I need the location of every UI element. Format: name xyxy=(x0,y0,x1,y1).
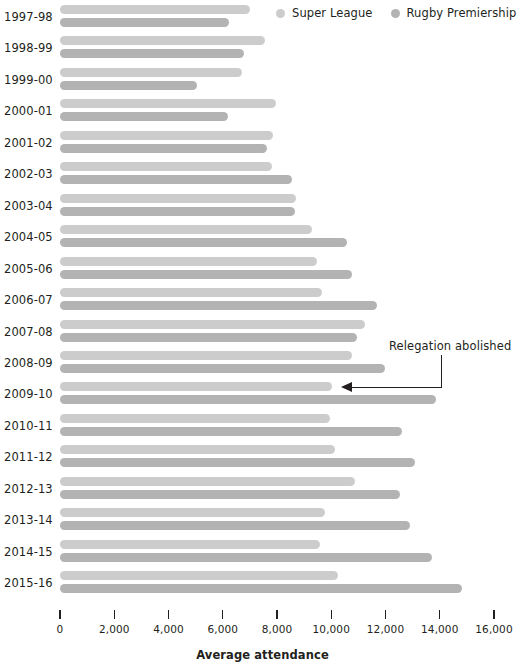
bar-super-league[interactable] xyxy=(60,36,265,45)
bar-super-league[interactable] xyxy=(60,257,317,266)
bar-super-league[interactable] xyxy=(60,68,242,77)
bar-super-league[interactable] xyxy=(60,320,365,329)
bar-rugby-premiership[interactable] xyxy=(60,49,244,58)
bar-super-league[interactable] xyxy=(60,477,355,486)
row-bars xyxy=(0,442,525,472)
chart-row: 1999-00 xyxy=(0,65,525,95)
bar-super-league[interactable] xyxy=(60,99,276,108)
bar-super-league[interactable] xyxy=(60,225,312,234)
bar-super-league[interactable] xyxy=(60,288,322,297)
row-bars xyxy=(0,254,525,284)
row-bars xyxy=(0,65,525,95)
chart-row: 2012-13 xyxy=(0,474,525,504)
bar-rugby-premiership[interactable] xyxy=(60,584,462,593)
row-bars xyxy=(0,128,525,158)
bar-super-league[interactable] xyxy=(60,5,250,14)
chart-row: 2011-12 xyxy=(0,442,525,472)
annotation-leader-vertical xyxy=(441,355,442,388)
bar-super-league[interactable] xyxy=(60,131,273,140)
chart-row: 2015-16 xyxy=(0,568,525,598)
bar-super-league[interactable] xyxy=(60,571,338,580)
bar-rugby-premiership[interactable] xyxy=(60,238,347,247)
annotation-arrowhead-icon xyxy=(341,382,352,392)
bar-rugby-premiership[interactable] xyxy=(60,144,267,153)
bar-super-league[interactable] xyxy=(60,414,330,423)
row-bars xyxy=(0,285,525,315)
bar-super-league[interactable] xyxy=(60,194,296,203)
x-axis-tick xyxy=(168,610,169,619)
bar-super-league[interactable] xyxy=(60,508,325,517)
x-axis-tick-label: 10,000 xyxy=(313,623,350,635)
attendance-bar-chart: Super League Rugby Premiership 1997-9819… xyxy=(0,0,525,669)
x-axis-tick xyxy=(59,610,60,619)
chart-row: 2005-06 xyxy=(0,254,525,284)
x-axis-title: Average attendance xyxy=(0,648,525,662)
x-axis-tick-label: 12,000 xyxy=(367,623,404,635)
chart-row: 1997-98 xyxy=(0,2,525,32)
x-axis-tick-label: 0 xyxy=(57,623,64,635)
bar-rugby-premiership[interactable] xyxy=(60,301,377,310)
row-bars xyxy=(0,537,525,567)
plot-area: 1997-981998-991999-002000-012001-022002-… xyxy=(0,0,525,600)
row-bars xyxy=(0,96,525,126)
x-axis-tick-label: 14,000 xyxy=(421,623,458,635)
bar-rugby-premiership[interactable] xyxy=(60,270,352,279)
row-bars xyxy=(0,159,525,189)
bar-super-league[interactable] xyxy=(60,162,272,171)
chart-row: 2002-03 xyxy=(0,159,525,189)
bar-rugby-premiership[interactable] xyxy=(60,175,292,184)
x-axis: Average attendance 02,0004,0006,0008,000… xyxy=(0,600,525,669)
x-axis-tick-label: 16,000 xyxy=(475,623,512,635)
bar-super-league[interactable] xyxy=(60,445,335,454)
row-bars xyxy=(0,568,525,598)
bar-rugby-premiership[interactable] xyxy=(60,553,432,562)
bar-rugby-premiership[interactable] xyxy=(60,18,229,27)
bar-rugby-premiership[interactable] xyxy=(60,490,400,499)
chart-row: 2013-14 xyxy=(0,505,525,535)
x-axis-tick xyxy=(493,610,494,619)
row-bars xyxy=(0,191,525,221)
chart-row: 2009-10 xyxy=(0,379,525,409)
chart-row: 2014-15 xyxy=(0,537,525,567)
x-axis-tick xyxy=(114,610,115,619)
bar-rugby-premiership[interactable] xyxy=(60,458,415,467)
x-axis-tick xyxy=(385,610,386,619)
x-axis-tick xyxy=(439,610,440,619)
x-axis-tick-label: 6,000 xyxy=(207,623,238,635)
annotation-label: Relegation abolished xyxy=(389,339,511,353)
bar-rugby-premiership[interactable] xyxy=(60,112,228,121)
x-axis-tick xyxy=(222,610,223,619)
x-axis-tick-label: 4,000 xyxy=(153,623,184,635)
x-axis-tick-label: 8,000 xyxy=(262,623,293,635)
row-bars xyxy=(0,411,525,441)
annotation-leader-horizontal xyxy=(350,387,442,388)
bar-rugby-premiership[interactable] xyxy=(60,81,197,90)
row-bars xyxy=(0,33,525,63)
row-bars xyxy=(0,222,525,252)
bar-rugby-premiership[interactable] xyxy=(60,395,436,404)
x-axis-tick xyxy=(276,610,277,619)
x-axis-tick xyxy=(331,610,332,619)
bar-rugby-premiership[interactable] xyxy=(60,364,385,373)
bar-super-league[interactable] xyxy=(60,351,352,360)
x-axis-tick-label: 2,000 xyxy=(99,623,130,635)
row-bars xyxy=(0,505,525,535)
bar-rugby-premiership[interactable] xyxy=(60,521,410,530)
bar-rugby-premiership[interactable] xyxy=(60,427,402,436)
bar-rugby-premiership[interactable] xyxy=(60,207,295,216)
chart-row: 1998-99 xyxy=(0,33,525,63)
chart-row: 2000-01 xyxy=(0,96,525,126)
row-bars xyxy=(0,474,525,504)
bar-super-league[interactable] xyxy=(60,540,320,549)
bar-rugby-premiership[interactable] xyxy=(60,333,357,342)
row-bars xyxy=(0,379,525,409)
bar-super-league[interactable] xyxy=(60,382,332,391)
chart-row: 2006-07 xyxy=(0,285,525,315)
row-bars xyxy=(0,2,525,32)
chart-row: 2003-04 xyxy=(0,191,525,221)
chart-row: 2010-11 xyxy=(0,411,525,441)
chart-row: 2001-02 xyxy=(0,128,525,158)
chart-row: 2004-05 xyxy=(0,222,525,252)
